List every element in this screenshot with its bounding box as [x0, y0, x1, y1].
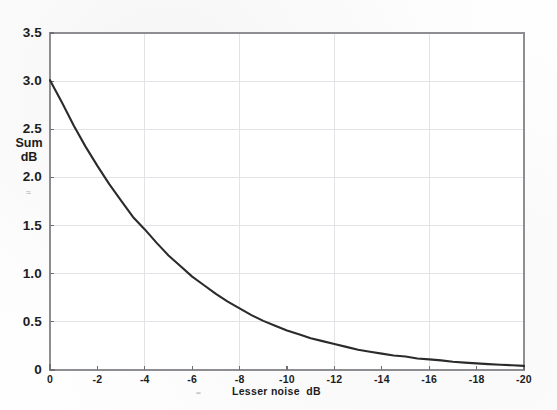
x-axis-title: Lesser noise dB: [232, 385, 321, 397]
y-tick-label-1-0: 1.0: [0, 266, 42, 281]
y-tick-label-2-5: 2.5: [0, 121, 42, 136]
x-tick-label-m6: -6: [172, 373, 212, 385]
x-tick-label-m2: -2: [77, 373, 117, 385]
y-tick-label-3-5: 3.5: [0, 25, 42, 40]
x-tick-label-m20: -20: [504, 373, 544, 385]
y-tick-label-0-5: 0.5: [0, 314, 42, 329]
y-axis-title-line-1: Sum: [6, 136, 52, 150]
x-tick-label-m16: -16: [409, 373, 449, 385]
scan-artifact-left: ≈: [26, 189, 31, 197]
x-tick-label-m18: -18: [457, 373, 497, 385]
y-axis-title: Sum dB: [6, 136, 52, 164]
y-tick-label-2-0: 2.0: [0, 169, 42, 184]
x-tick-label-m14: -14: [362, 373, 402, 385]
y-axis-title-line-2: dB: [6, 150, 52, 164]
plot-area-svg: [0, 0, 557, 410]
x-tick-label-m8: -8: [220, 373, 260, 385]
y-tick-label-1-5: 1.5: [0, 218, 42, 233]
x-tick-label-0: 0: [30, 373, 70, 385]
chart-figure: 3.5 3.0 2.5 2.0 1.5 1.0 0.5 0 Sum dB 0 -…: [0, 0, 557, 410]
x-tick-label-m12: -12: [314, 373, 354, 385]
x-tick-label-m4: -4: [125, 373, 165, 385]
x-tick-label-m10: -10: [267, 373, 307, 385]
y-tick-label-3-0: 3.0: [0, 73, 42, 88]
scan-artifact-bottom: ≈: [196, 390, 201, 397]
